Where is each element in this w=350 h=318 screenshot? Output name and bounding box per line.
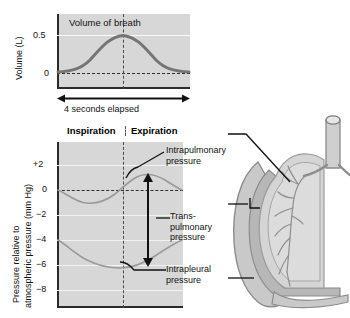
bottom-chart-ytick-minus8: −8 [36,285,46,294]
bottom-chart-ytick-minus2: −2 [36,210,46,219]
top-chart-ytick-1: 0 [44,69,49,78]
transpulmonary-callout-leader [156,216,170,220]
phase-label-expiration: Expiration [131,125,177,136]
bottom-chart-ytick-0: 0 [42,185,47,194]
top-chart-title: Volume of breath [69,17,141,28]
transpulmonary-callout-line3: pressure [170,232,212,243]
intrapleural-callout-leader [120,260,166,278]
phase-label-inspiration: Inspiration [67,125,116,136]
thorax-lung-pleura-diagram [228,112,350,312]
intrapulmonary-callout-label: Intrapulmonary pressure [166,145,226,166]
bottom-chart: Pressure relative to atmospheric pressur… [0,120,230,318]
intrapleural-callout-label: Intrapleural pressure [166,264,211,285]
trachea-opening [326,116,340,124]
bottom-chart-ytick-minus4: −4 [36,235,46,244]
top-chart-plot-area: Volume of breath [57,14,190,89]
transpulmonary-pressure-arrow [141,173,155,267]
transpulmonary-callout-label: Trans- pulmonary pressure [170,211,212,243]
intrapleural-callout-line1: Intrapleural [166,264,211,275]
intrapleural-callout-line2: pressure [166,275,211,286]
bottom-chart-ylabel-line2: atmospheric pressure (mm Hg) [23,184,33,308]
bottom-chart-ylabel-wrap2: atmospheric pressure (mm Hg) [23,308,147,318]
top-chart-duration-arrow [57,93,190,104]
transpulmonary-callout-line2: pulmonary [170,222,212,233]
top-chart-ytick-0: 0.5 [33,31,46,40]
transpulmonary-callout-line1: Trans- [170,211,212,222]
intrapulmonary-callout-line1: Intrapulmonary [166,145,226,156]
bottom-chart-ytick-plus2: +2 [33,160,43,169]
top-chart-ylabel: Volume (L) [14,36,24,80]
top-chart: Volume (L) 0.5 0 Volume of breath [0,0,200,115]
bottom-chart-ylabel-line1: Pressure relative to [11,225,21,303]
figure-root: Volume (L) 0.5 0 Volume of breath [0,0,350,318]
intrapulmonary-callout-line2: pressure [166,156,226,167]
bottom-chart-ytick-minus6: −6 [36,260,46,269]
top-chart-xaxis-annotation: 4 seconds elapsed [64,104,139,114]
top-chart-ylabel-wrap: Volume (L) [14,80,58,90]
intrapulmonary-callout-leader [126,148,166,180]
trachea-shape [326,120,340,168]
phase-divider-tick [125,126,126,136]
